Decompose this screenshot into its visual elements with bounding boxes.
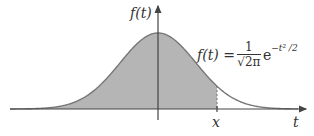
density-formula: f(t) = 1 √2π e −t² /2: [197, 41, 298, 69]
y-axis-label: f(t): [130, 6, 152, 20]
formula-lhs: f(t) =: [197, 47, 235, 63]
formula-denominator: √2π: [237, 55, 260, 69]
x-marker-label: x: [212, 115, 220, 129]
formula-exponent: −t² /2: [271, 43, 297, 53]
formula-numerator: 1: [245, 41, 253, 54]
t-axis-label: t: [293, 115, 299, 129]
formula-fraction: 1 √2π: [237, 41, 261, 69]
formula-base: e: [263, 47, 271, 63]
